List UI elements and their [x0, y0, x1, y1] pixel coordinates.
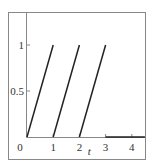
- x-tick-label: 2: [77, 141, 83, 153]
- x-tick-label: 1: [50, 141, 56, 153]
- y-tick-label: 0.5: [10, 85, 24, 97]
- series-line-segment-3: [79, 45, 105, 137]
- series-line-segment-1: [27, 45, 53, 137]
- x-tick-label: 3: [103, 141, 109, 153]
- y-tick-label: 1: [19, 39, 25, 51]
- x-tick-label: 0: [17, 141, 23, 153]
- tick-marks: [26, 45, 132, 137]
- x-tick-label: 4: [129, 141, 135, 153]
- x-axis-label: t: [88, 145, 92, 157]
- tick-labels: 01234t0.51: [10, 39, 135, 157]
- series-line-segment-2: [53, 45, 79, 137]
- chart-canvas: 01234t0.51: [0, 0, 154, 164]
- data-series: [27, 45, 145, 137]
